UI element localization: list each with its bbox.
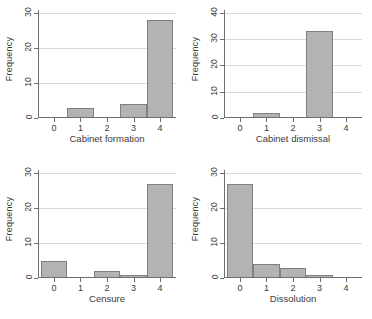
x-axis-tick-label: 4 — [150, 283, 170, 293]
x-axis-tick — [80, 118, 81, 122]
x-axis-tick-label: 0 — [44, 283, 64, 293]
histogram-panel: Frequency010203001234Censure — [0, 160, 186, 319]
x-axis-tick-label: 1 — [70, 283, 90, 293]
y-axis-tick-label-text: 20 — [208, 203, 218, 212]
histogram-bar — [120, 104, 147, 118]
y-axis-tick-label: 30 — [209, 33, 218, 43]
x-axis-tick-label: 2 — [283, 123, 303, 133]
x-axis-tick-label: 0 — [230, 283, 250, 293]
y-axis-tick-label-text: 30 — [22, 8, 32, 17]
y-axis-tick-label: 30 — [23, 167, 32, 177]
histogram-bar — [41, 261, 68, 278]
x-axis-tick — [346, 118, 347, 122]
y-axis-tick-label-text: 40 — [208, 7, 218, 16]
y-axis-tick-label: 0 — [213, 112, 218, 122]
y-axis-tick-label: 10 — [23, 237, 32, 247]
y-axis-title: Frequency — [188, 160, 202, 278]
y-axis-tick-label-text: 30 — [208, 33, 218, 42]
histogram-panel: Frequency01020304001234Cabinet dismissal — [186, 0, 372, 159]
y-axis-tick-label: 10 — [209, 86, 218, 96]
x-axis-tick-label: 2 — [97, 123, 117, 133]
y-axis-tick-label: 0 — [213, 272, 218, 282]
gridline — [38, 173, 176, 174]
histogram-bar — [227, 184, 254, 278]
x-axis-tick — [54, 278, 55, 282]
y-axis-tick-label: 10 — [23, 77, 32, 87]
x-axis-tick-label: 4 — [336, 123, 356, 133]
y-axis-title: Frequency — [2, 0, 16, 118]
x-axis-tick — [293, 278, 294, 282]
gridline — [224, 173, 362, 174]
y-axis-title: Frequency — [2, 160, 16, 278]
y-axis-tick — [220, 118, 224, 119]
gridline — [224, 92, 362, 93]
x-axis-tick-label: 0 — [44, 123, 64, 133]
y-axis-tick-label-text: 0 — [211, 275, 221, 280]
x-axis-title: Censure — [38, 293, 176, 304]
histogram-panel: Frequency010203001234Dissolution — [186, 160, 372, 319]
y-axis-tick-label: 10 — [209, 237, 218, 247]
y-axis-tick-label-text: 0 — [25, 115, 35, 120]
histogram-panel: Frequency010203001234Cabinet formation — [0, 0, 186, 159]
y-axis-tick — [220, 278, 224, 279]
x-axis-tick — [160, 278, 161, 282]
x-axis-tick — [266, 118, 267, 122]
y-axis-title-text: Frequency — [190, 197, 200, 241]
plot-area: 01020304001234 — [224, 10, 362, 118]
x-axis-tick-label: 3 — [124, 123, 144, 133]
gridline — [224, 65, 362, 66]
plot-area: 010203001234 — [38, 10, 176, 118]
y-axis-tick-label-text: 10 — [22, 237, 32, 246]
y-axis-tick-label: 0 — [27, 112, 32, 122]
x-axis-tick-label: 0 — [230, 123, 250, 133]
x-axis-tick — [107, 278, 108, 282]
gridline — [38, 13, 176, 14]
gridline — [224, 13, 362, 14]
y-axis-tick-label-text: 10 — [208, 237, 218, 246]
y-axis-line — [38, 170, 39, 278]
x-axis-title: Cabinet dismissal — [224, 133, 362, 144]
plot-area: 010203001234 — [224, 170, 362, 278]
y-axis-tick-label: 0 — [27, 272, 32, 282]
y-axis-title-text: Frequency — [4, 37, 14, 81]
histogram-bar — [253, 264, 280, 278]
x-axis-tick-label: 1 — [70, 123, 90, 133]
x-axis-tick — [107, 118, 108, 122]
x-axis-tick — [160, 118, 161, 122]
y-axis-tick-label-text: 10 — [208, 86, 218, 95]
x-axis-title: Dissolution — [224, 293, 362, 304]
x-axis-tick-label: 3 — [310, 123, 330, 133]
x-axis-tick — [266, 278, 267, 282]
y-axis-tick-label-text: 20 — [22, 43, 32, 52]
y-axis-tick-label: 20 — [23, 202, 32, 212]
y-axis-tick-label: 40 — [209, 7, 218, 17]
y-axis-tick-label-text: 20 — [22, 203, 32, 212]
histogram-panel-grid: Frequency010203001234Cabinet formationFr… — [0, 0, 372, 319]
x-axis-tick-label: 2 — [97, 283, 117, 293]
y-axis-tick-label-text: 0 — [25, 275, 35, 280]
x-axis-tick — [240, 118, 241, 122]
histogram-bar — [147, 184, 174, 278]
x-axis-tick-label: 4 — [336, 283, 356, 293]
x-axis-tick-label: 3 — [310, 283, 330, 293]
x-axis-tick — [320, 278, 321, 282]
y-axis-tick-label-text: 30 — [208, 168, 218, 177]
y-axis-title-text: Frequency — [4, 197, 14, 241]
y-axis-line — [38, 10, 39, 118]
gridline — [224, 39, 362, 40]
x-axis-tick — [346, 278, 347, 282]
histogram-bar — [147, 20, 174, 118]
x-axis-tick — [240, 278, 241, 282]
x-axis-tick — [134, 278, 135, 282]
y-axis-line — [224, 10, 225, 118]
y-axis-tick-label: 20 — [23, 42, 32, 52]
x-axis-tick-label: 1 — [256, 283, 276, 293]
y-axis-line — [224, 170, 225, 278]
x-axis-tick — [293, 118, 294, 122]
y-axis-tick — [34, 118, 38, 119]
y-axis-tick-label-text: 30 — [22, 168, 32, 177]
y-axis-tick-label-text: 0 — [211, 115, 221, 120]
histogram-bar — [306, 31, 333, 118]
x-axis-tick — [54, 118, 55, 122]
x-axis-tick — [80, 278, 81, 282]
